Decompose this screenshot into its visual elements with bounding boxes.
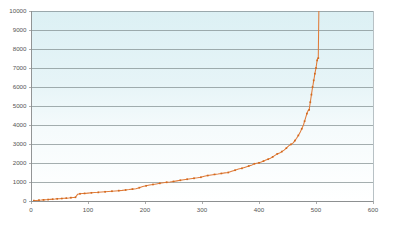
data-point	[234, 169, 236, 171]
data-point	[248, 165, 250, 167]
data-point	[166, 181, 168, 183]
data-point	[311, 94, 313, 96]
data-point	[145, 185, 147, 187]
data-point	[313, 80, 315, 82]
data-point	[104, 191, 106, 193]
data-point	[258, 162, 260, 164]
x-tick-label-500: 500	[311, 206, 322, 213]
data-point	[61, 198, 63, 200]
data-point	[200, 176, 202, 178]
data-point	[65, 197, 67, 199]
y-tick-label-10000: 10000	[9, 7, 27, 14]
data-point	[227, 172, 229, 174]
y-tick-label-5000: 5000	[13, 102, 27, 109]
data-point	[179, 179, 181, 181]
x-tick-label-0: 0	[29, 206, 33, 213]
data-point	[79, 193, 81, 195]
y-tick-label-0: 0	[23, 197, 27, 204]
data-point	[193, 177, 195, 179]
y-tick-label-3000: 3000	[13, 140, 27, 147]
y-tick-label-6000: 6000	[13, 83, 27, 90]
data-point	[47, 199, 49, 201]
data-point	[125, 189, 127, 191]
data-point	[276, 153, 278, 155]
y-tick-label-7000: 7000	[13, 64, 27, 71]
data-point	[111, 190, 113, 192]
y-tick-label-8000: 8000	[13, 45, 27, 52]
data-point	[281, 151, 283, 153]
data-point	[132, 188, 134, 190]
y-tick-label-1000: 1000	[13, 178, 27, 185]
x-tick-label-100: 100	[83, 206, 94, 213]
data-point	[294, 140, 296, 142]
data-point	[301, 128, 303, 130]
x-tick-label-300: 300	[197, 206, 208, 213]
data-point	[84, 193, 86, 195]
data-point	[75, 196, 77, 198]
data-point	[267, 158, 269, 160]
data-point	[221, 173, 223, 175]
data-point	[52, 198, 54, 200]
data-point	[308, 109, 310, 111]
data-point	[263, 160, 265, 162]
data-point	[173, 181, 175, 183]
chart-container: 0100020003000400050006000700080009000100…	[0, 0, 395, 227]
data-point	[97, 192, 99, 194]
data-point	[70, 197, 72, 199]
data-point	[152, 184, 154, 186]
data-point	[316, 60, 318, 62]
data-point	[317, 57, 319, 59]
data-point	[138, 187, 140, 189]
data-point	[309, 101, 311, 103]
data-point	[272, 156, 274, 158]
data-point	[91, 192, 93, 194]
data-point	[207, 175, 209, 177]
x-tick-label-400: 400	[254, 206, 265, 213]
data-point	[56, 198, 58, 200]
data-point	[43, 199, 45, 201]
data-point	[306, 113, 308, 115]
data-point	[241, 167, 243, 169]
x-tick-label-600: 600	[368, 206, 379, 213]
data-point	[290, 144, 292, 146]
data-point	[38, 199, 40, 201]
y-tick-label-2000: 2000	[13, 159, 27, 166]
data-point	[312, 86, 314, 88]
data-point	[314, 73, 316, 75]
data-point	[118, 190, 120, 192]
data-point	[214, 174, 216, 176]
data-point	[186, 178, 188, 180]
data-point	[315, 67, 317, 69]
data-point	[286, 147, 288, 149]
data-point	[159, 182, 161, 184]
line-chart: 0100020003000400050006000700080009000100…	[0, 0, 395, 227]
data-point	[297, 135, 299, 137]
y-tick-label-4000: 4000	[13, 121, 27, 128]
data-point	[304, 120, 306, 122]
y-tick-label-9000: 9000	[13, 26, 27, 33]
x-tick-label-200: 200	[140, 206, 151, 213]
data-point	[254, 163, 256, 165]
